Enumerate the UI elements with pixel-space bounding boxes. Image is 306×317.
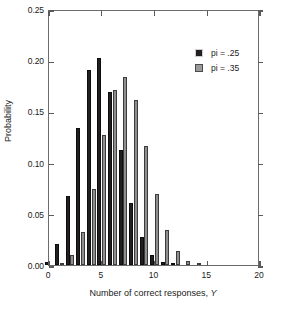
chart-legend: pi = .25pi = .35 [195, 45, 271, 75]
y-tick-label: 0.25 [0, 5, 44, 15]
bar [144, 146, 148, 265]
y-tick-mark-right [258, 113, 263, 114]
legend-item: pi = .35 [195, 60, 271, 75]
bar [102, 135, 106, 265]
x-tick-mark-top [207, 11, 208, 16]
bar [140, 237, 144, 265]
x-tick-label: 5 [86, 270, 116, 280]
bar [66, 196, 70, 265]
x-tick-mark-top [48, 11, 49, 16]
bar [97, 58, 101, 265]
gray-square-swatch [195, 64, 203, 72]
bar [197, 263, 201, 265]
y-tick-label: 0.20 [0, 56, 44, 66]
bar [186, 261, 190, 265]
y-tick-mark [49, 164, 54, 165]
y-tick-mark [49, 62, 54, 63]
x-axis-title: Number of correct responses, Y [0, 288, 306, 298]
bar [119, 150, 123, 265]
x-tick-label: 10 [139, 270, 169, 280]
bar [113, 90, 117, 265]
bar [155, 194, 159, 265]
y-tick-mark [49, 266, 54, 267]
x-tick-label: 0 [33, 270, 63, 280]
bar [87, 70, 91, 265]
bar [81, 232, 85, 265]
bar [165, 230, 169, 265]
x-tick-label: 15 [191, 270, 221, 280]
x-tick-mark-top [101, 11, 102, 16]
x-tick-label: 20 [244, 270, 274, 280]
y-tick-mark [49, 113, 54, 114]
y-tick-label: 0.05 [0, 210, 44, 220]
x-tick-mark [207, 261, 208, 266]
bar [161, 262, 165, 265]
x-axis-title-variable: Y [211, 288, 217, 298]
bar [176, 251, 180, 265]
bar [70, 255, 74, 265]
bar [108, 92, 112, 265]
x-tick-mark [101, 261, 102, 266]
bar [134, 100, 138, 265]
bar [171, 263, 175, 265]
y-tick-mark [49, 215, 54, 216]
x-tick-mark-top [259, 11, 260, 16]
legend-item-label: pi = .35 [211, 63, 239, 73]
bar [129, 203, 133, 265]
bar [60, 263, 64, 265]
y-tick-mark-right [258, 215, 263, 216]
binomial-probability-chart: pi = .25pi = .35 0.000.050.100.150.200.2… [0, 0, 306, 317]
legend-item-label: pi = .25 [211, 48, 239, 58]
bar [123, 77, 127, 265]
legend-item: pi = .25 [195, 45, 271, 60]
x-axis-title-text: Number of correct responses, [89, 288, 210, 298]
bar [76, 128, 80, 265]
y-axis-title: Probability [3, 71, 13, 171]
x-tick-mark [154, 261, 155, 266]
x-tick-mark [48, 261, 49, 266]
bar [55, 244, 59, 266]
x-tick-mark-top [154, 11, 155, 16]
plot-area: pi = .25pi = .35 [48, 10, 259, 266]
black-square-swatch [195, 49, 203, 57]
y-tick-mark-right [258, 164, 263, 165]
x-tick-mark [259, 261, 260, 266]
y-tick-mark-right [258, 266, 263, 267]
bar [92, 189, 96, 265]
